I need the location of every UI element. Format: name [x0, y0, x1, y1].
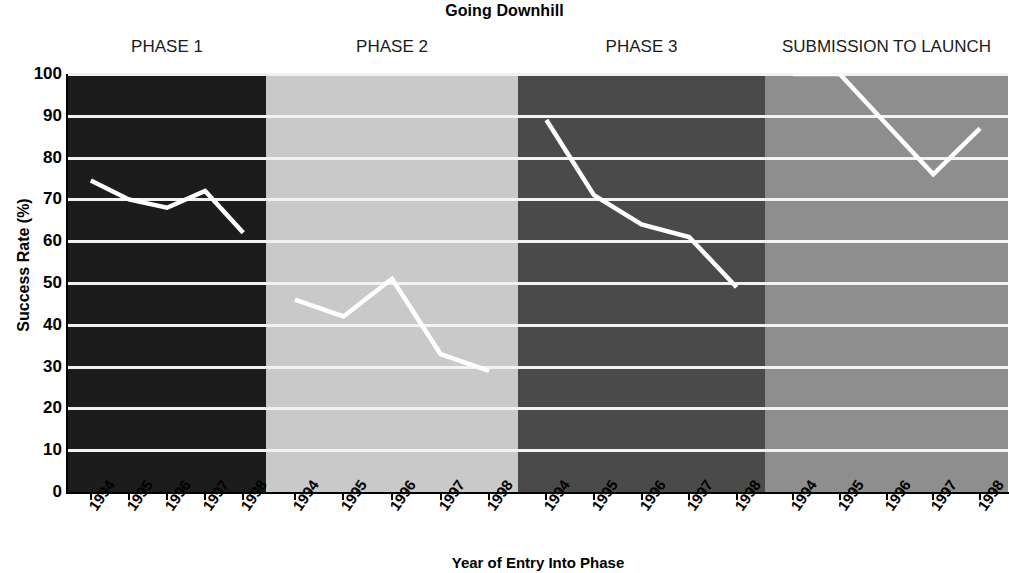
panel-header-3: PHASE 3: [518, 36, 765, 60]
series-line-panel-2: [295, 279, 489, 371]
chart-title: Going Downhill: [0, 2, 1009, 20]
y-tick-label-90: 90: [2, 107, 62, 124]
y-axis-spine: [66, 74, 68, 494]
series-line-panel-3: [546, 120, 736, 287]
series-layer: [68, 74, 1008, 492]
y-tick-label-10: 10: [2, 441, 62, 458]
panel-header-2: PHASE 2: [266, 36, 518, 60]
y-tick-label-0: 0: [2, 483, 62, 500]
panel-header-row: PHASE 1PHASE 2PHASE 3SUBMISSION TO LAUNC…: [68, 36, 1008, 60]
series-line-panel-1: [91, 181, 243, 233]
panel-header-1: PHASE 1: [68, 36, 266, 60]
series-line-panel-4: [793, 74, 980, 174]
x-axis-title: Year of Entry Into Phase: [68, 554, 1008, 571]
panel-header-4: SUBMISSION TO LAUNCH: [765, 36, 1008, 60]
y-tick-label-20: 20: [2, 399, 62, 416]
chart-figure: Going Downhill PHASE 1PHASE 2PHASE 3SUBM…: [0, 0, 1009, 573]
x-tick-labels: 1994199519961997199819941995199619971998…: [68, 498, 1008, 556]
y-tick-label-100: 100: [2, 65, 62, 82]
y-axis-title: Success Rate (%): [15, 145, 33, 385]
plot-area: [68, 74, 1008, 492]
